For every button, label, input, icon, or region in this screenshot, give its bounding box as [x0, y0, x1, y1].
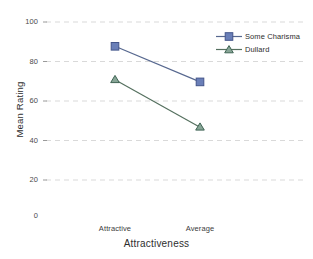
y-tick-marks: [43, 22, 47, 180]
series-dullard: [111, 75, 205, 130]
y-tick-label-20: 20: [14, 175, 38, 184]
series-some-charisma: [111, 43, 204, 86]
y-tick-label-100: 100: [14, 17, 38, 26]
legend: Some Charisma Dullard: [216, 31, 300, 55]
legend-marker-triangle-icon: [216, 44, 242, 55]
legend-label-some-charisma: Some Charisma: [245, 32, 300, 41]
legend-marker-square-icon: [216, 31, 242, 42]
legend-item-some-charisma[interactable]: Some Charisma: [216, 31, 300, 42]
x-tick-label-attractive: Attractive: [85, 224, 145, 233]
legend-item-dullard[interactable]: Dullard: [216, 44, 300, 55]
x-tick-label-average: Average: [170, 224, 230, 233]
legend-label-dullard: Dullard: [245, 45, 269, 54]
y-tick-label-0: 0: [14, 211, 38, 220]
interaction-line-chart: 100 80 60 40 20 0 Attractive Average Att…: [0, 0, 313, 259]
x-axis-title: Attractiveness: [0, 238, 313, 249]
y-axis-title: Mean Rating: [14, 55, 25, 165]
